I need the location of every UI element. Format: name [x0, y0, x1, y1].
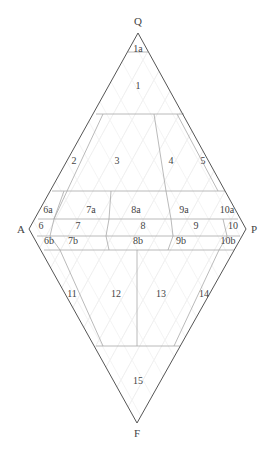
field-label-10b: 10b [221, 235, 236, 246]
field-label-9a: 9a [179, 204, 189, 215]
field-label-11: 11 [67, 288, 77, 299]
vertex-label-p: P [251, 223, 257, 235]
field-label-6: 6 [39, 220, 44, 231]
field-label-8a: 8a [131, 204, 141, 215]
field-label-8b: 8b [133, 235, 143, 246]
field-label-9b: 9b [176, 235, 186, 246]
qapf-diagram: Q A P F 1a 1 2 3 4 5 6a 7a 8a 9a 10a 6 7… [0, 0, 271, 454]
field-label-6b: 6b [44, 235, 54, 246]
field-label-12: 12 [111, 288, 121, 299]
field-label-15: 15 [133, 375, 143, 386]
field-label-13: 13 [156, 288, 166, 299]
field-label-8: 8 [141, 220, 146, 231]
vertex-label-a: A [17, 223, 25, 235]
field-label-7b: 7b [68, 235, 78, 246]
vertex-label-q: Q [134, 15, 142, 27]
field-label-1a: 1a [133, 43, 143, 54]
field-label-1: 1 [136, 80, 141, 91]
field-label-2: 2 [72, 155, 77, 166]
field-label-10a: 10a [220, 204, 235, 215]
field-label-7: 7 [76, 220, 81, 231]
field-label-3: 3 [115, 155, 120, 166]
vertex-label-f: F [134, 427, 140, 439]
field-label-10: 10 [228, 220, 238, 231]
field-label-14: 14 [199, 288, 209, 299]
field-label-9: 9 [194, 220, 199, 231]
field-label-4: 4 [169, 155, 174, 166]
field-label-5: 5 [201, 155, 206, 166]
field-label-7a: 7a [86, 204, 96, 215]
field-label-6a: 6a [43, 204, 53, 215]
